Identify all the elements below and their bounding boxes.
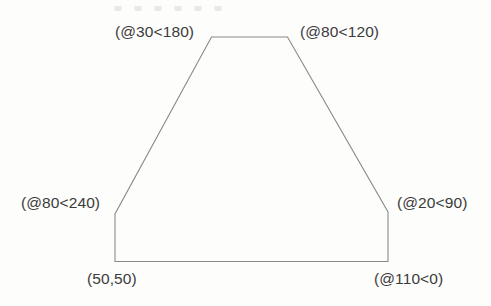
trapezoid-outline bbox=[115, 37, 388, 262]
middle-right-vertex-label: (@20<90) bbox=[397, 195, 467, 211]
middle-left-vertex-label: (@80<240) bbox=[21, 195, 100, 211]
top-left-vertex-label: (@30<180) bbox=[115, 24, 194, 40]
bottom-left-vertex-label: (50,50) bbox=[87, 271, 137, 287]
top-right-vertex-label: (@80<120) bbox=[300, 24, 379, 40]
polygon-figure bbox=[0, 0, 491, 306]
bottom-right-vertex-label: (@110<0) bbox=[374, 271, 443, 287]
drawing-canvas: (@30<180) (@80<120) (@80<240) (@20<90) (… bbox=[0, 0, 491, 306]
